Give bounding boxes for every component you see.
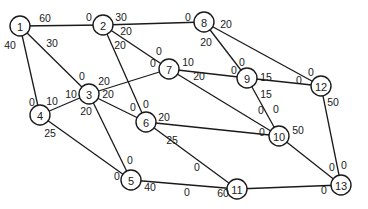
capacity-label: 20 <box>120 26 132 37</box>
node-label: 2 <box>100 20 106 32</box>
capacity-label: 0 <box>114 171 120 182</box>
capacity-label: 20 <box>98 76 110 87</box>
capacity-label: 50 <box>327 97 339 108</box>
node-label: 3 <box>86 89 92 101</box>
node-label: 5 <box>128 175 134 187</box>
capacity-label: 20 <box>193 71 205 82</box>
node-9: 9 <box>237 68 257 88</box>
capacity-label: 10 <box>182 57 194 68</box>
capacity-label: 0 <box>194 162 200 173</box>
capacity-label: 25 <box>44 128 56 139</box>
node-4: 4 <box>30 105 50 125</box>
capacity-label: 60 <box>39 13 51 24</box>
node-13: 13 <box>331 175 351 195</box>
node-label: 10 <box>273 131 285 143</box>
capacity-label: 0 <box>321 185 327 196</box>
capacity-label: 0 <box>130 102 136 113</box>
node-12: 12 <box>311 76 331 96</box>
capacity-label: 0 <box>156 46 162 57</box>
capacity-label: 20 <box>102 89 114 100</box>
capacity-label: 30 <box>46 38 58 49</box>
node-label: 4 <box>37 110 43 122</box>
capacity-label: 60 <box>217 188 229 199</box>
node-6: 6 <box>136 112 156 132</box>
node-label: 12 <box>315 81 327 93</box>
capacity-label: 20 <box>114 40 126 51</box>
capacity-label: 0 <box>341 160 347 171</box>
capacity-label: 0 <box>127 155 133 166</box>
capacity-label: 0 <box>184 187 190 198</box>
node-10: 10 <box>269 126 289 146</box>
capacity-label: 25 <box>166 135 178 146</box>
capacity-label: 20 <box>220 19 232 30</box>
node-label: 8 <box>201 17 207 29</box>
node-label: 6 <box>143 117 149 129</box>
capacity-label: 0 <box>258 105 264 116</box>
node-label: 1 <box>17 21 23 33</box>
capacity-label: 20 <box>158 112 170 123</box>
capacity-label: 30 <box>115 12 127 23</box>
capacity-label: 0 <box>150 58 156 69</box>
network-flow-diagram: 12345678910111213 6004030300202020200010… <box>0 0 368 209</box>
capacity-label: 0 <box>296 75 302 86</box>
node-8: 8 <box>194 12 214 32</box>
node-2: 2 <box>93 15 113 35</box>
capacity-label: 10 <box>46 96 58 107</box>
node-label: 13 <box>335 180 347 192</box>
capacity-label: 0 <box>86 12 92 23</box>
capacity-label: 0 <box>185 12 191 23</box>
capacity-label: 0 <box>239 57 245 68</box>
capacity-label: 10 <box>65 89 77 100</box>
edge-6-11 <box>146 122 237 189</box>
capacity-label: 50 <box>292 125 304 136</box>
capacity-label: 0 <box>29 97 35 108</box>
node-1: 1 <box>10 16 30 36</box>
node-label: 11 <box>231 184 242 196</box>
capacity-label: 0 <box>231 65 237 76</box>
node-label: 7 <box>166 64 172 76</box>
edges-layer <box>20 22 341 189</box>
capacity-label: 0 <box>273 104 279 115</box>
capacity-label: 15 <box>260 72 272 83</box>
capacity-label: 40 <box>4 40 16 51</box>
capacity-label: 40 <box>144 182 156 193</box>
capacity-label: 0 <box>259 127 265 138</box>
capacity-label: 0 <box>143 99 149 110</box>
capacity-label: 0 <box>79 71 85 82</box>
capacity-label: 20 <box>80 106 92 117</box>
node-3: 3 <box>79 84 99 104</box>
capacity-label: 15 <box>260 89 272 100</box>
capacity-label: 0 <box>308 67 314 78</box>
capacity-label: 20 <box>200 37 212 48</box>
node-7: 7 <box>159 59 179 79</box>
node-label: 9 <box>244 73 250 85</box>
edge-1-2 <box>20 25 103 26</box>
capacity-label: 0 <box>329 162 335 173</box>
edge-3-5 <box>89 94 131 180</box>
node-5: 5 <box>121 170 141 190</box>
node-11: 11 <box>227 179 247 199</box>
